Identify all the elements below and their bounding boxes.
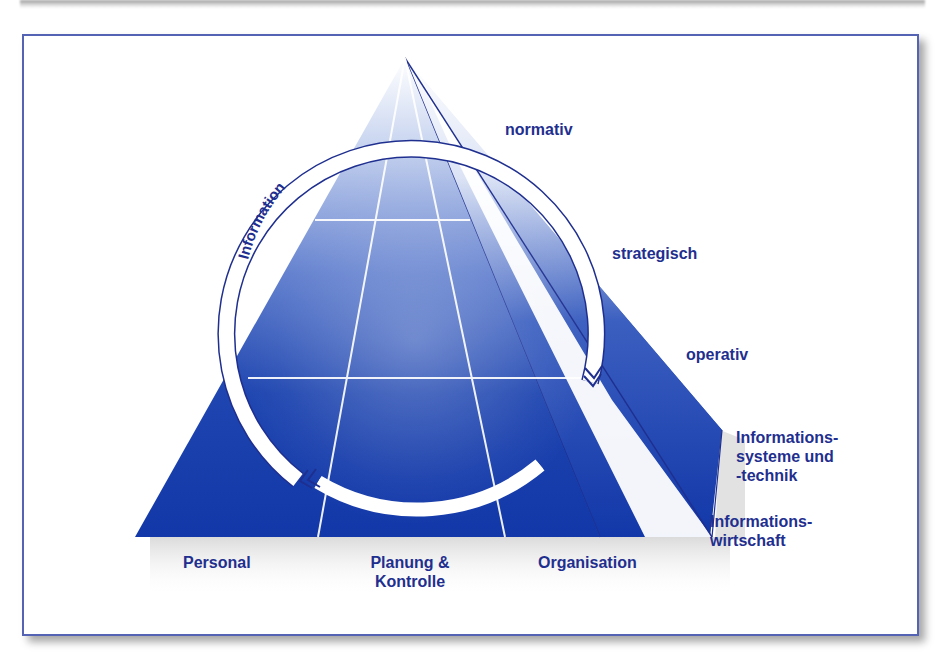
side-label-line: Informations- (710, 512, 812, 531)
level-label-normativ: normativ (505, 120, 573, 139)
base-label-planung: Planung & Kontrolle (355, 553, 465, 591)
side-label-is-technik: Informations- systeme und -technik (736, 428, 838, 485)
side-label-line: -technik (736, 466, 838, 485)
level-label-strategisch: strategisch (612, 244, 697, 263)
level-label-operativ: operativ (686, 345, 748, 364)
side-label-line: Informations- (736, 428, 838, 447)
side-label-informationswirtschaft: Informations- wirtschaft (710, 512, 812, 550)
base-label-personal: Personal (183, 553, 251, 572)
side-label-line: wirtschaft (710, 531, 812, 550)
base-label-line: Planung & (355, 553, 465, 572)
base-label-line: Kontrolle (355, 572, 465, 591)
base-label-organisation: Organisation (538, 553, 637, 572)
side-label-line: systeme und (736, 447, 838, 466)
pyramid-diagram: Information (0, 0, 950, 659)
